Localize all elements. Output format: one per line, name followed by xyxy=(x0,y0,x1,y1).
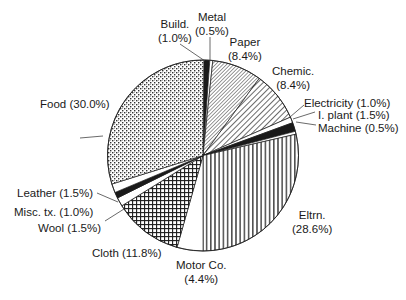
leader-machine xyxy=(296,122,316,125)
label-metal-name: Metal xyxy=(195,10,229,24)
label-metal: Metal (0.5%) xyxy=(195,10,229,38)
label-motor-pct: (4.4%) xyxy=(176,272,227,286)
label-metal-pct: (0.5%) xyxy=(195,24,229,38)
label-misc: Misc. tx. (1.0%) xyxy=(14,205,93,219)
label-build-pct: (1.0%) xyxy=(158,31,192,45)
leader-leather xyxy=(97,193,118,202)
label-leather: Leather (1.5%) xyxy=(17,186,93,200)
label-motor-name: Motor Co. xyxy=(176,258,227,272)
label-paper-name: Paper xyxy=(228,35,262,49)
leader-wool xyxy=(105,209,124,221)
label-wool: Wool (1.5%) xyxy=(38,221,101,235)
label-eltrn-pct: (28.6%) xyxy=(292,222,332,236)
label-eltrn-name: Eltrn. xyxy=(292,208,332,222)
leader-build xyxy=(180,44,205,61)
label-motor: Motor Co. (4.4%) xyxy=(176,258,227,286)
label-iplant: I. plant (1.5%) xyxy=(318,108,390,122)
leader-iplant xyxy=(293,112,315,119)
label-build: Build. (1.0%) xyxy=(158,17,192,45)
leader-food xyxy=(80,136,103,138)
label-chemic: Chemic. (8.4%) xyxy=(272,64,314,92)
label-eltrn: Eltrn. (28.6%) xyxy=(292,208,332,236)
label-machine: Machine (0.5%) xyxy=(318,121,399,135)
pie-chart xyxy=(0,0,406,300)
label-chemic-name: Chemic. xyxy=(272,64,314,78)
label-build-name: Build. xyxy=(158,17,192,31)
label-food: Food (30.0%) xyxy=(40,97,110,111)
pie-slices xyxy=(108,60,299,251)
label-chemic-pct: (8.4%) xyxy=(272,78,314,92)
label-paper: Paper (8.4%) xyxy=(228,35,262,63)
leader-electricity xyxy=(290,105,304,117)
label-cloth: Cloth (11.8%) xyxy=(92,246,161,260)
label-paper-pct: (8.4%) xyxy=(228,49,262,63)
